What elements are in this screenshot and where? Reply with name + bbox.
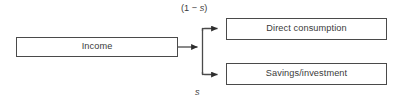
edge-label-one-minus-s-suffix: ) (204, 3, 207, 13)
edge-split-to-direct-consumption (203, 29, 218, 32)
split-to-direct-consumption-line (203, 29, 218, 32)
edge-split-to-savings-investment (203, 72, 218, 75)
node-savings-investment-label: Savings/investment (266, 69, 347, 78)
node-savings-investment: Savings/investment (226, 63, 387, 85)
edge-label-one-minus-s: (1 − s) (181, 4, 207, 13)
node-direct-consumption-label: Direct consumption (266, 24, 346, 33)
split-to-savings-investment-line (203, 72, 218, 75)
edge-label-s: s (195, 88, 200, 97)
node-direct-consumption: Direct consumption (226, 18, 387, 40)
node-income-label: Income (82, 42, 113, 51)
node-income: Income (16, 37, 178, 57)
edge-label-one-minus-s-prefix: (1 − (181, 3, 200, 13)
flow-diagram: Income Direct consumption Savings/invest… (0, 0, 402, 102)
